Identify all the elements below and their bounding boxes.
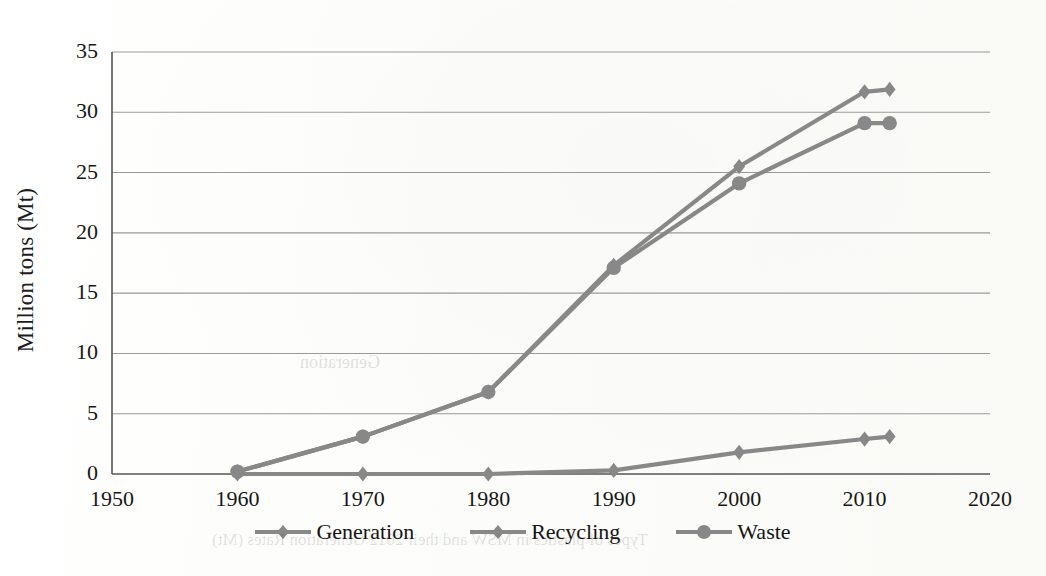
data-point-recycling — [482, 466, 494, 481]
data-point-generation — [859, 84, 871, 99]
y-axis-title-label: Million tons (Mt) — [13, 188, 39, 352]
y-tick-label: 5 — [44, 400, 98, 426]
series-markers-group — [230, 82, 897, 482]
diamond-marker-icon — [255, 522, 311, 542]
circle-marker-icon — [676, 522, 732, 542]
data-point-waste — [356, 429, 370, 443]
series-lines-group — [237, 89, 889, 474]
series-line-waste — [237, 123, 889, 471]
data-point-waste — [481, 385, 495, 399]
legend-label: Waste — [737, 519, 790, 545]
data-point-recycling — [859, 431, 871, 446]
legend-label: Generation — [316, 519, 414, 545]
x-tick-label: 1990 — [569, 486, 659, 512]
data-point-recycling — [884, 429, 896, 444]
legend-item-recycling[interactable]: Recycling — [470, 519, 620, 545]
legend-item-generation[interactable]: Generation — [255, 519, 414, 545]
chart-legend: GenerationRecyclingWaste — [0, 519, 1046, 545]
x-tick-label: 1950 — [67, 486, 157, 512]
y-tick-label: 15 — [44, 279, 98, 305]
gridlines-group — [112, 52, 990, 414]
data-point-waste — [230, 464, 244, 478]
legend-item-waste[interactable]: Waste — [676, 519, 790, 545]
y-tick-label: 30 — [44, 98, 98, 124]
line-chart: Million tons (Mt) 05101520253035 1950196… — [0, 0, 1046, 576]
y-axis-title: Million tons (Mt) — [6, 150, 46, 390]
legend-label: Recycling — [531, 519, 620, 545]
x-tick-label: 2000 — [694, 486, 784, 512]
figure-container: Million tons (Mt) 05101520253035 1950196… — [0, 0, 1046, 576]
data-point-recycling — [733, 445, 745, 460]
diamond-marker-icon — [470, 522, 526, 542]
data-point-waste — [882, 116, 896, 130]
x-tick-label: 1970 — [318, 486, 408, 512]
y-tick-label: 25 — [44, 159, 98, 185]
y-tick-label: 20 — [44, 219, 98, 245]
data-point-recycling — [357, 466, 369, 481]
x-tick-label: 1980 — [443, 486, 533, 512]
x-tick-label: 2010 — [820, 486, 910, 512]
x-tick-label: 2020 — [945, 486, 1035, 512]
y-tick-label: 10 — [44, 339, 98, 365]
data-point-waste — [607, 261, 621, 275]
data-point-recycling — [608, 463, 620, 478]
data-point-waste — [857, 116, 871, 130]
axes-group — [112, 52, 990, 474]
data-point-waste — [732, 176, 746, 190]
data-point-generation — [884, 82, 896, 97]
x-tick-label: 1960 — [192, 486, 282, 512]
y-tick-label: 0 — [44, 460, 98, 486]
y-tick-label: 35 — [44, 38, 98, 64]
